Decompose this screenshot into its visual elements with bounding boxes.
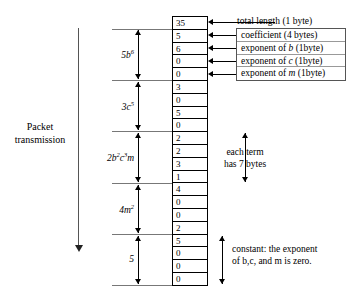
byte-cell: 0	[173, 260, 207, 273]
term-tick	[112, 234, 172, 235]
byte-cell: 0	[173, 94, 207, 107]
byte-cell: 2	[173, 145, 207, 158]
legend-row-exponent-b: exponent of b (1byte)	[237, 42, 345, 55]
note-constant-line2: of b,c, and m is zero.	[232, 255, 317, 267]
byte-cell: 0	[173, 273, 207, 286]
term-measure-arrow	[138, 30, 139, 79]
term-measure-arrow	[138, 185, 139, 233]
byte-cell: 5	[173, 107, 207, 120]
packet-transmission-label-line1: Packet	[8, 120, 72, 133]
byte-cell: 35	[173, 17, 207, 30]
byte-cell: 3	[173, 81, 207, 94]
term-measure-arrow	[138, 133, 139, 182]
note-each-term-line2: has 7 bytes	[221, 158, 269, 170]
term-label-3: 2b2c3m	[78, 151, 134, 163]
byte-cell: 0	[173, 196, 207, 209]
byte-cell: 6	[173, 43, 207, 56]
byte-cell: 1	[173, 171, 207, 184]
legend-exponent-m-prefix: exponent of	[241, 68, 289, 78]
byte-cell: 0	[173, 247, 207, 260]
legend-row-exponent-m: exponent of m (1byte)	[237, 67, 345, 80]
term-label-1-sup: 6	[131, 48, 134, 55]
byte-cell: 2	[173, 222, 207, 235]
term-tick	[112, 285, 172, 286]
legend-row-coefficient: coefficient (4 bytes)	[237, 29, 345, 42]
byte-cell: 5	[173, 235, 207, 248]
term-measure-arrow	[138, 82, 139, 130]
term-tick	[112, 131, 172, 132]
note-each-term-line1: each term	[221, 146, 269, 158]
byte-cell: 5	[173, 30, 207, 43]
term-label-3-tail: m	[127, 153, 134, 163]
byte-cell: 0	[173, 68, 207, 81]
term-measure-arrow	[138, 236, 139, 284]
term-label-3-main: 2b	[107, 153, 117, 163]
leader-line-coefficient	[213, 35, 236, 36]
term-label-1-main: 5b	[121, 50, 131, 60]
byte-cell: 0	[173, 55, 207, 68]
term-label-2-main: 3c	[122, 102, 131, 112]
legend-row-exponent-c: exponent of c (1byte)	[237, 55, 345, 68]
byte-cell: 2	[173, 132, 207, 145]
legend-exponent-c-prefix: exponent of	[241, 56, 289, 66]
term-label-2-sup: 5	[131, 100, 134, 107]
legend-exponent-m-suffix: (1byte)	[295, 68, 325, 78]
constant-measure-arrow	[222, 236, 223, 284]
leader-line-exponent-m	[213, 74, 236, 75]
legend-exponent-c-suffix: (1byte)	[293, 56, 323, 66]
term-label-1: 5b6	[100, 48, 134, 60]
packet-transmission-label: Packet transmission	[8, 120, 72, 146]
term-label-2: 3c5	[100, 100, 134, 112]
term-tick	[112, 29, 172, 30]
term-label-5-main: 5	[129, 254, 134, 264]
byte-cell: 0	[173, 119, 207, 132]
byte-cell: 0	[173, 209, 207, 222]
packet-transmission-arrow	[78, 28, 79, 246]
term-label-4-main: 4m	[119, 205, 131, 215]
byte-table: 35 5 6 0 0 3 0 5 0 2 2 3 1 4 0 0 2 5 0 0…	[172, 16, 208, 286]
legend-total-length: total length (1 byte)	[237, 16, 312, 26]
legend-exponent-b-prefix: exponent of	[241, 43, 289, 53]
leader-line-exponent-b	[213, 48, 236, 49]
byte-cell: 3	[173, 158, 207, 171]
legend-box: coefficient (4 bytes) exponent of b (1by…	[236, 28, 346, 81]
term-label-4: 4m2	[98, 203, 134, 215]
leader-line-exponent-c	[213, 61, 236, 62]
term-label-4-sup: 2	[131, 203, 134, 210]
legend-exponent-b-suffix: (1byte)	[293, 43, 323, 53]
diagram-canvas: 35 5 6 0 0 3 0 5 0 2 2 3 1 4 0 0 2 5 0 0…	[0, 0, 348, 300]
term-tick	[112, 183, 172, 184]
note-constant-line1: constant: the exponent	[232, 243, 317, 255]
packet-transmission-label-line2: transmission	[8, 133, 72, 146]
term-tick	[112, 80, 172, 81]
term-label-5: 5	[104, 254, 134, 264]
legend-coefficient-text: coefficient (4 bytes)	[241, 30, 317, 40]
note-each-term: each term has 7 bytes	[221, 146, 269, 170]
note-constant: constant: the exponent of b,c, and m is …	[232, 243, 317, 267]
byte-cell: 4	[173, 183, 207, 196]
